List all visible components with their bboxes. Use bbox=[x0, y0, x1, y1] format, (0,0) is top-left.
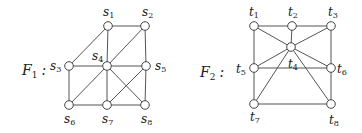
node-t7 bbox=[250, 100, 259, 109]
node-label-t2: t2 bbox=[288, 5, 298, 20]
node-label-s5: s5 bbox=[155, 59, 166, 74]
edge-s4-s6 bbox=[69, 66, 107, 105]
node-label-t7: t7 bbox=[250, 110, 260, 125]
node-s2 bbox=[141, 22, 150, 31]
node-s8 bbox=[141, 101, 150, 110]
node-label-s8: s8 bbox=[141, 112, 152, 127]
node-t4 bbox=[287, 43, 296, 52]
node-label-t3: t3 bbox=[328, 5, 338, 20]
node-t2 bbox=[288, 22, 297, 31]
edge-t4-t5 bbox=[254, 47, 291, 68]
node-label-s1: s1 bbox=[103, 5, 114, 20]
node-t6 bbox=[327, 64, 336, 73]
graph-diagram-canvas: s1s2s3s4s5s6s7s8 F1: t1t2t3t4t5t6t7t8 F2… bbox=[0, 0, 362, 133]
node-t1 bbox=[250, 22, 259, 31]
node-s1 bbox=[104, 22, 113, 31]
graph-f1-title: F1: bbox=[21, 62, 46, 80]
edge-t3-t4 bbox=[291, 26, 331, 47]
node-label-t6: t6 bbox=[337, 62, 347, 77]
node-label-t4: t4 bbox=[288, 57, 298, 72]
graph-f1: s1s2s3s4s5s6s7s8 F1: bbox=[21, 5, 166, 127]
node-s7 bbox=[103, 101, 112, 110]
edge-t4-t7 bbox=[254, 47, 291, 104]
edge-s2-s4 bbox=[107, 26, 145, 66]
node-label-t5: t5 bbox=[236, 62, 246, 77]
edge-s1-s4 bbox=[107, 26, 108, 66]
edge-s2-s5 bbox=[145, 26, 146, 66]
graph-f2-title: F2: bbox=[199, 64, 224, 82]
node-t3 bbox=[327, 22, 336, 31]
node-label-s2: s2 bbox=[142, 5, 153, 20]
node-label-s6: s6 bbox=[64, 112, 75, 127]
node-label-t8: t8 bbox=[329, 113, 339, 128]
node-t5 bbox=[250, 64, 259, 73]
node-t8 bbox=[327, 100, 336, 109]
graph-f2: t1t2t3t4t5t6t7t8 F2: bbox=[199, 5, 347, 128]
node-label-s7: s7 bbox=[102, 112, 113, 127]
edge-t4-t8 bbox=[291, 47, 331, 104]
node-s6 bbox=[65, 101, 74, 110]
node-s5 bbox=[142, 62, 151, 71]
edge-t1-t4 bbox=[254, 26, 291, 47]
node-label-s4: s4 bbox=[92, 49, 103, 64]
node-s4 bbox=[103, 62, 112, 71]
node-label-s3: s3 bbox=[50, 59, 61, 74]
edge-s5-s8 bbox=[145, 66, 146, 105]
node-label-t1: t1 bbox=[249, 5, 259, 20]
node-s3 bbox=[65, 62, 74, 71]
